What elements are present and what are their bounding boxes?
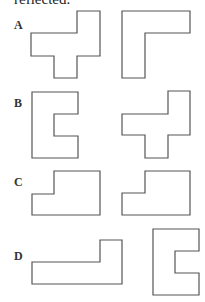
option-a-shape-left <box>31 11 100 78</box>
option-b-shape-right <box>122 91 190 158</box>
option-b-shape-left <box>32 92 78 158</box>
option-c-shape-right <box>122 171 190 215</box>
shapes-figure <box>0 0 205 302</box>
option-d-shape-left <box>32 240 122 284</box>
option-a-shape-right <box>122 11 190 78</box>
option-d-shape-right <box>153 229 199 295</box>
option-c-shape-left <box>32 171 100 215</box>
